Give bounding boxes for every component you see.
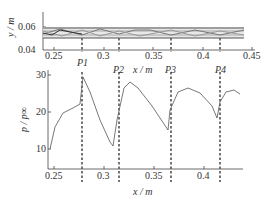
bottom-plot bbox=[48, 70, 243, 169]
bottom-xtick-1: 0.3 bbox=[97, 170, 110, 181]
marker-p1: P1 bbox=[77, 57, 88, 68]
marker-p4: P4 bbox=[215, 64, 226, 75]
top-xtick-1: 0.3 bbox=[97, 50, 110, 61]
top-xtick-4: 0.45 bbox=[243, 50, 261, 61]
bottom-ylabel: p / p∞ bbox=[18, 107, 29, 132]
bottom-xlabel: x / m bbox=[133, 186, 152, 197]
bottom-ytick-10: 10 bbox=[36, 143, 46, 154]
chart-canvas bbox=[0, 0, 267, 204]
pressure-curve bbox=[50, 77, 240, 149]
top-ylabel: y / m bbox=[5, 18, 16, 37]
marker-p3: P3 bbox=[165, 64, 176, 75]
top-xtick-2: 0.35 bbox=[145, 50, 163, 61]
bottom-ytick-30: 30 bbox=[36, 69, 46, 80]
bottom-xtick-3: 0.4 bbox=[197, 170, 210, 181]
top-ytick-006: 0.06 bbox=[18, 21, 36, 32]
top-xtick-3: 0.4 bbox=[197, 50, 210, 61]
channel-band bbox=[43, 27, 244, 38]
top-ytick-004: 0.04 bbox=[18, 44, 36, 55]
marker-p2: P2 bbox=[113, 64, 124, 75]
top-xlabel: x / m bbox=[133, 64, 152, 75]
bottom-ytick-20: 20 bbox=[36, 106, 46, 117]
bottom-xtick-2: 0.35 bbox=[145, 170, 163, 181]
top-xtick-0: 0.25 bbox=[45, 50, 63, 61]
bottom-xtick-0: 0.25 bbox=[45, 170, 63, 181]
